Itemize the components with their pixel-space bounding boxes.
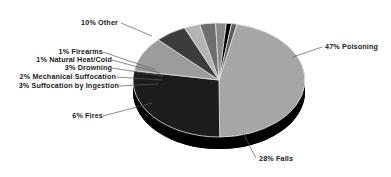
slice-label-fires: 6% Fires: [72, 111, 103, 120]
pie-slice-falls: [133, 71, 220, 137]
slice-label-other: 10% Other: [81, 18, 118, 27]
leader-poisoning: [293, 47, 322, 57]
slice-label-mechanical-suffocation: 2% Mechanical Suffocation: [20, 72, 116, 81]
slice-label-drowning: 3% Drowning: [65, 63, 112, 72]
leader-other: [121, 23, 152, 36]
slice-label-suffocation-by-ingestion: 3% Suffocation by Ingestion: [19, 81, 119, 90]
pie-chart-figure: 10% Other 1% Firearms 1% Natural Heat/Co…: [0, 0, 391, 177]
slice-label-poisoning: 47% Poisoning: [325, 42, 378, 51]
slice-label-falls: 28% Falls: [259, 154, 293, 163]
